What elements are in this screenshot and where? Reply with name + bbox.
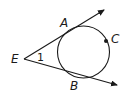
label-C: C [111, 32, 120, 46]
point-C-dot [104, 39, 108, 43]
label-B: B [70, 79, 78, 92]
label-E: E [11, 52, 19, 66]
tangent-circle-diagram: E A B C 1 [0, 0, 125, 92]
label-A: A [59, 16, 68, 30]
angle-1-label: 1 [37, 51, 44, 64]
